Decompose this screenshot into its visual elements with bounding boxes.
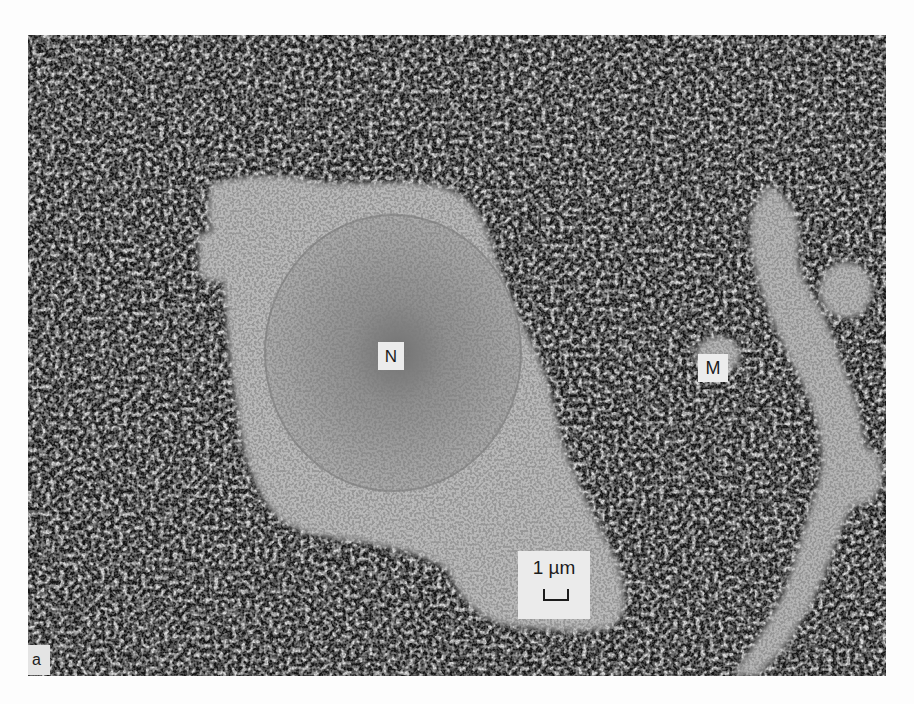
structure-label-m: M: [698, 354, 728, 382]
scale-bar: 1 µm: [518, 551, 590, 619]
scale-bar-text: 1 µm: [518, 557, 590, 579]
micrograph-image: [28, 35, 886, 676]
electron-micrograph: N M 1 µm a: [28, 35, 886, 676]
nucleus-label: N: [378, 342, 404, 370]
scale-bar-line: [543, 589, 569, 601]
panel-label: a: [28, 645, 50, 675]
